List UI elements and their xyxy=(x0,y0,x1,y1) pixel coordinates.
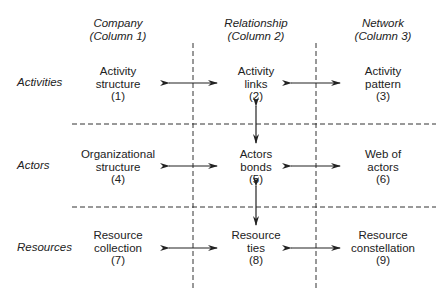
cell-number: (6) xyxy=(328,173,438,186)
column-title: Relationship xyxy=(224,17,287,29)
cell-number: (4) xyxy=(63,173,173,186)
cell-9: Resourceconstellation(9) xyxy=(328,229,438,267)
column-title: Company xyxy=(93,17,142,29)
cell-number: (2) xyxy=(201,90,311,103)
cell-label: structure xyxy=(63,161,173,174)
cell-label: pattern xyxy=(328,78,438,91)
cell-label: ties xyxy=(201,242,311,255)
cell-label: Resource xyxy=(328,229,438,242)
cell-number: (8) xyxy=(201,254,311,267)
cell-label: Actors xyxy=(201,148,311,161)
cell-label: constellation xyxy=(328,242,438,255)
cell-label: Activity xyxy=(201,65,311,78)
row-label-activities: Activities xyxy=(17,76,62,88)
cell-number: (1) xyxy=(63,90,173,103)
cell-6: Web ofactors(6) xyxy=(328,148,438,186)
cell-label: Organizational xyxy=(63,148,173,161)
column-sub: (Column 1) xyxy=(90,30,147,42)
cell-label: bonds xyxy=(201,161,311,174)
cell-label: structure xyxy=(63,78,173,91)
cell-label: Activity xyxy=(328,65,438,78)
cell-5: Actorsbonds(5) xyxy=(201,148,311,186)
cell-label: links xyxy=(201,78,311,91)
cell-number: (5) xyxy=(201,173,311,186)
column-title: Network xyxy=(362,17,404,29)
column-header-network: Network(Column 3) xyxy=(333,17,433,42)
column-header-relationship: Relationship(Column 2) xyxy=(206,17,306,42)
cell-label: collection xyxy=(63,242,173,255)
cell-7: Resourcecollection(7) xyxy=(63,229,173,267)
cell-number: (7) xyxy=(63,254,173,267)
cell-label: Resource xyxy=(201,229,311,242)
cell-4: Organizationalstructure(4) xyxy=(63,148,173,186)
cell-1: Activitystructure(1) xyxy=(63,65,173,103)
cell-8: Resourceties(8) xyxy=(201,229,311,267)
column-sub: (Column 2) xyxy=(228,30,285,42)
column-header-company: Company(Column 1) xyxy=(68,17,168,42)
row-label-actors: Actors xyxy=(17,159,50,171)
cell-label: Activity xyxy=(63,65,173,78)
cell-2: Activitylinks(2) xyxy=(201,65,311,103)
cell-label: actors xyxy=(328,161,438,174)
cell-label: Resource xyxy=(63,229,173,242)
column-sub: (Column 3) xyxy=(355,30,412,42)
cell-number: (9) xyxy=(328,254,438,267)
cell-number: (3) xyxy=(328,90,438,103)
cell-3: Activitypattern(3) xyxy=(328,65,438,103)
cell-label: Web of xyxy=(328,148,438,161)
